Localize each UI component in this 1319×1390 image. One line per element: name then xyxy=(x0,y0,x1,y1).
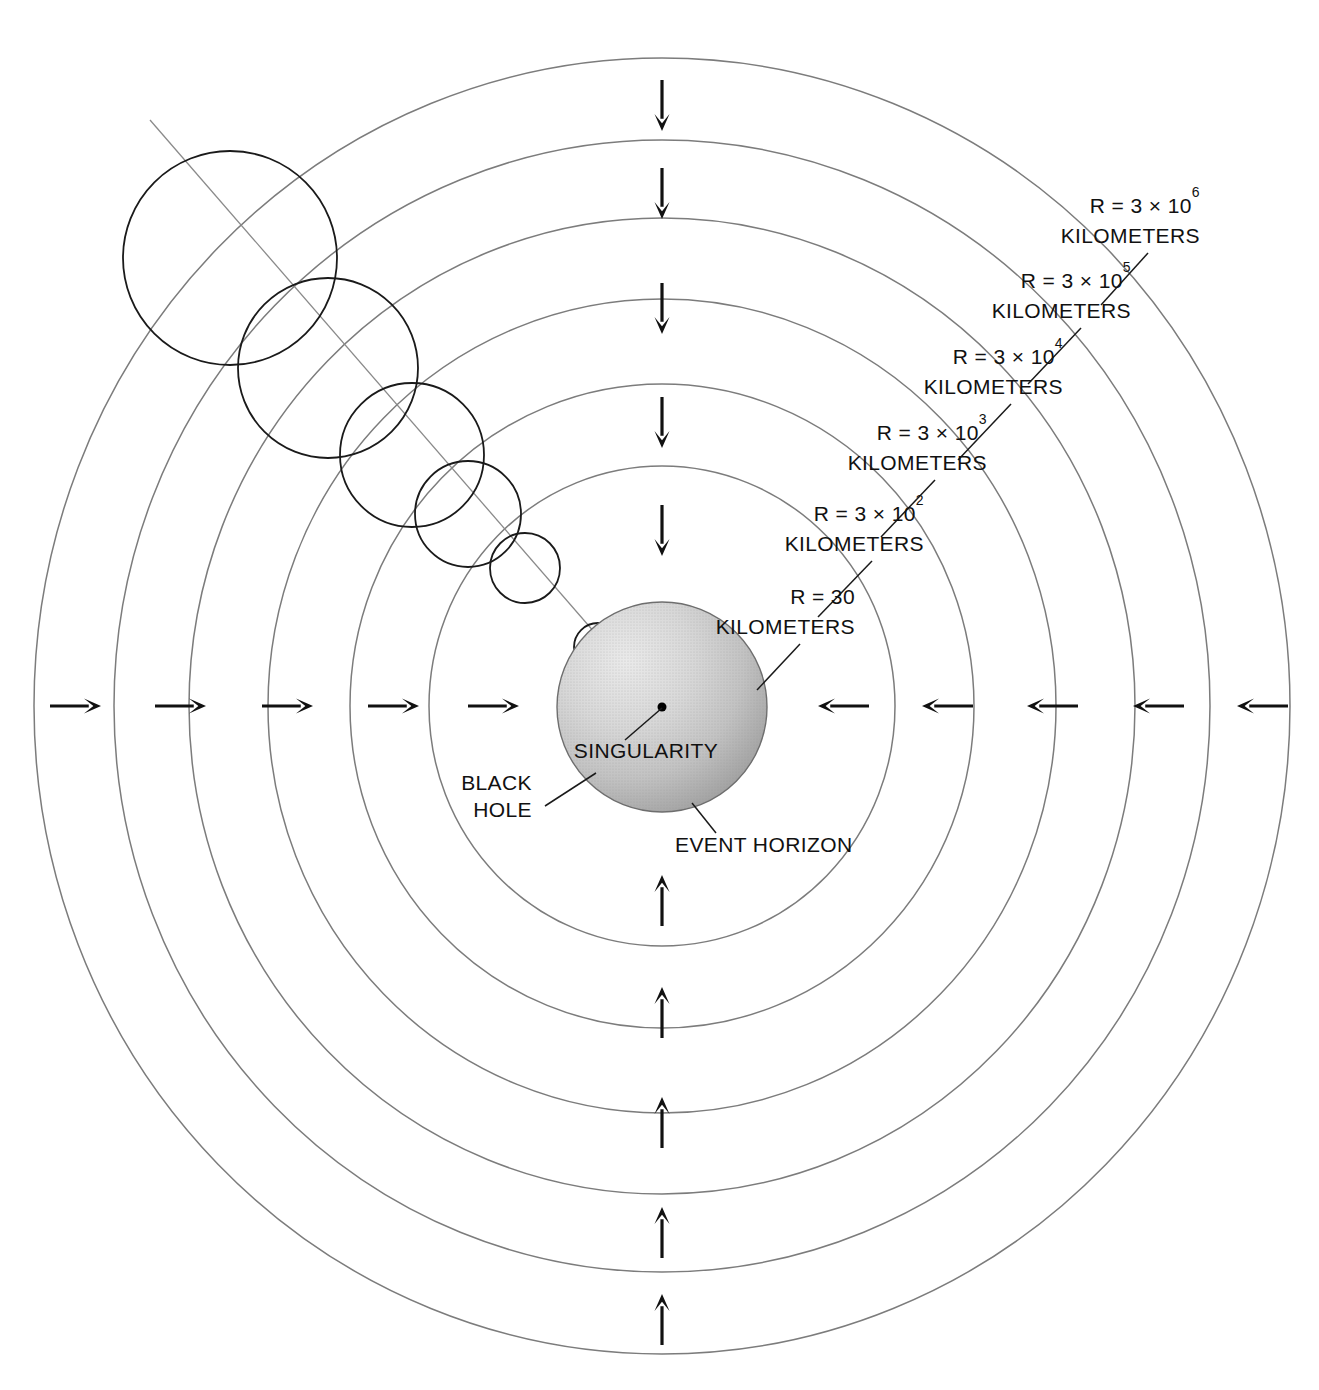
singularity-label: SINGULARITY xyxy=(574,739,718,762)
r-3e3-value: R = 3 × 103 xyxy=(877,411,987,444)
r-3e2-unit: KILOMETERS xyxy=(785,532,924,555)
r-3e6-value: R = 3 × 106 xyxy=(1090,184,1200,217)
diagram-canvas: R = 3 × 106KILOMETERSR = 3 × 105KILOMETE… xyxy=(0,0,1319,1390)
star-stage-4 xyxy=(415,461,521,567)
black-hole-diagram: R = 3 × 106KILOMETERSR = 3 × 105KILOMETE… xyxy=(0,0,1319,1390)
collapsing-star-sequence xyxy=(123,151,622,671)
black-hole-leader xyxy=(545,773,596,806)
r-3e4-unit: KILOMETERS xyxy=(924,375,1063,398)
black-hole-label-line1: BLACK xyxy=(461,771,532,794)
r-3e4-value: R = 3 × 104 xyxy=(953,335,1063,368)
r-30-value: R = 30 xyxy=(790,585,855,608)
r-3e6-unit: KILOMETERS xyxy=(1061,224,1200,247)
r-30-unit: KILOMETERS xyxy=(716,615,855,638)
r-3e5-unit: KILOMETERS xyxy=(992,299,1131,322)
r-30-leader xyxy=(757,644,800,690)
star-stage-5 xyxy=(490,533,560,603)
event-horizon-label: EVENT HORIZON xyxy=(675,833,853,856)
r-3e2-value: R = 3 × 102 xyxy=(814,492,924,525)
collapse-trajectory-line xyxy=(150,120,648,694)
black-hole-label-line2: HOLE xyxy=(473,798,532,821)
r-3e3-unit: KILOMETERS xyxy=(848,451,987,474)
event-horizon-leader xyxy=(692,803,716,833)
r-3e5-value: R = 3 × 105 xyxy=(1021,259,1131,292)
star-stage-3 xyxy=(340,383,484,527)
star-stage-1 xyxy=(123,151,337,365)
